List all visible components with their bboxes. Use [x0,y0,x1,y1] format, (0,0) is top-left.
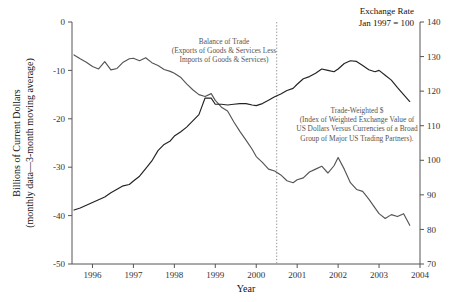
trade-weighted-dollar-label: Trade-Weighted $(Index of Weighted Excha… [296,106,418,143]
right-axis-tick-label: 90 [427,190,437,200]
trade-weighted-dollar-label-line: US Dollars Versus Currencies of a Broad [296,124,418,133]
chart-annotations: Balance of Trade(Exports of Goods & Serv… [172,37,418,143]
chart-container: 0-10-20-30-40-50140130120110100908070199… [0,0,475,302]
x-axis-tick-label: 1999 [206,270,225,280]
x-axis-tick-label: 2000 [247,270,266,280]
trade-weighted-dollar-label-line: Trade-Weighted $ [330,106,383,115]
right-axis-tick-label: 140 [427,17,441,27]
y-axis-title-line2: (monthly data—3-month moving average) [24,58,36,228]
x-axis-tick-label: 1998 [165,270,184,280]
x-axis-tick-label: 2001 [288,270,306,280]
left-axis-tick-label: -50 [53,259,65,269]
left-axis-tick-label: -30 [53,162,65,172]
y-axis-title-line1: Billions of Current Dollars [11,89,22,197]
x-axis-tick-label: 1996 [83,270,102,280]
trade-weighted-dollar-label-line: Group of Major US Trading Partners). [300,134,413,143]
trade-weighted-dollar-label-line: (Index of Weighted Exchange Value of [300,115,415,124]
x-axis-tick-label: 2004 [411,270,430,280]
right-axis-tick-label: 100 [427,155,441,165]
right-axis-tick-label: 80 [427,225,437,235]
left-axis-tick-label: 0 [61,17,66,27]
left-axis-tick-label: -20 [53,114,65,124]
x-axis-tick-label: 2002 [329,270,347,280]
left-axis-tick-label: -10 [53,66,65,76]
left-axis-tick-label: -40 [53,211,65,221]
x-axis-tick-label: 1997 [124,270,143,280]
right-axis-tick-label: 110 [427,121,441,131]
balance-of-trade-label-line: Balance of Trade [199,37,250,46]
exchange-rate-base-note: Jan 1997 = 100 [359,18,415,28]
exchange-rate-title: Exchange Rate [360,6,414,16]
balance-of-trade-label-line: Imports of Goods & Services) [179,55,269,64]
right-axis-tick-label: 70 [427,259,437,269]
exchange-rate-trade-balance-chart: 0-10-20-30-40-50140130120110100908070199… [0,0,475,302]
right-axis-tick-label: 120 [427,86,441,96]
right-axis-tick-label: 130 [427,52,441,62]
balance-of-trade-label-line: (Exports of Goods & Services Less [172,46,277,55]
x-axis-tick-label: 2003 [370,270,389,280]
x-axis-title: Year [237,283,256,294]
balance-of-trade-label: Balance of Trade(Exports of Goods & Serv… [172,37,277,64]
